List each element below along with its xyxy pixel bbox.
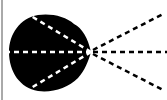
outer-ray-lower <box>93 54 163 90</box>
diagram-canvas <box>0 0 167 100</box>
radiation-pattern-diagram <box>0 0 167 100</box>
outer-dashed-rays <box>93 14 167 90</box>
outer-ray-upper <box>93 14 163 50</box>
